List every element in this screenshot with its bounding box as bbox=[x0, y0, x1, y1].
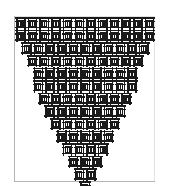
pattern-canvas bbox=[0, 0, 169, 186]
figure-container: Recursive weave triangle pattern Inverte… bbox=[0, 0, 169, 186]
weave-triangle-svg bbox=[0, 0, 169, 186]
weave-cell-group bbox=[15, 17, 155, 186]
